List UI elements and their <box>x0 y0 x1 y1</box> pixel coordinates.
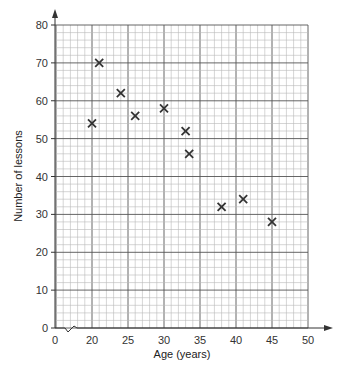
svg-text:25: 25 <box>122 334 134 346</box>
svg-text:45: 45 <box>266 334 278 346</box>
svg-text:20: 20 <box>36 246 48 258</box>
x-tick-labels: 020253035404550 <box>52 334 314 346</box>
y-tick-labels: 01020304050607080 <box>36 19 55 334</box>
svg-text:70: 70 <box>36 57 48 69</box>
x-axis-label: Age (years) <box>154 348 211 360</box>
svg-text:40: 40 <box>36 171 48 183</box>
svg-text:10: 10 <box>36 284 48 296</box>
svg-text:40: 40 <box>230 334 242 346</box>
svg-text:50: 50 <box>36 133 48 145</box>
data-points <box>88 59 276 226</box>
scatter-chart: 020253035404550 01020304050607080 Age (y… <box>0 0 338 378</box>
svg-text:0: 0 <box>42 322 48 334</box>
svg-text:30: 30 <box>158 334 170 346</box>
svg-text:50: 50 <box>302 334 314 346</box>
svg-text:20: 20 <box>86 334 98 346</box>
grid <box>55 25 308 328</box>
svg-text:30: 30 <box>36 208 48 220</box>
svg-text:35: 35 <box>194 334 206 346</box>
svg-text:60: 60 <box>36 95 48 107</box>
svg-text:80: 80 <box>36 19 48 31</box>
svg-text:0: 0 <box>52 334 58 346</box>
y-axis-label: Number of lessons <box>12 130 24 222</box>
